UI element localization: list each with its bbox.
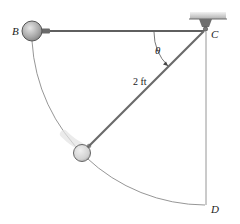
swing-arc [32,41,205,205]
pendulum-figure: B C θ 2 ft D [0,0,240,224]
ball-b [22,21,42,41]
label-c: C [211,28,219,40]
ceiling-support [189,12,227,31]
label-theta: θ [155,44,161,56]
label-d: D [210,203,219,215]
label-b: B [12,25,19,37]
label-rod-length: 2 ft [133,76,147,87]
motion-blur [64,134,80,146]
rod-diagonal [88,31,204,147]
rod-horizontal [40,29,204,34]
